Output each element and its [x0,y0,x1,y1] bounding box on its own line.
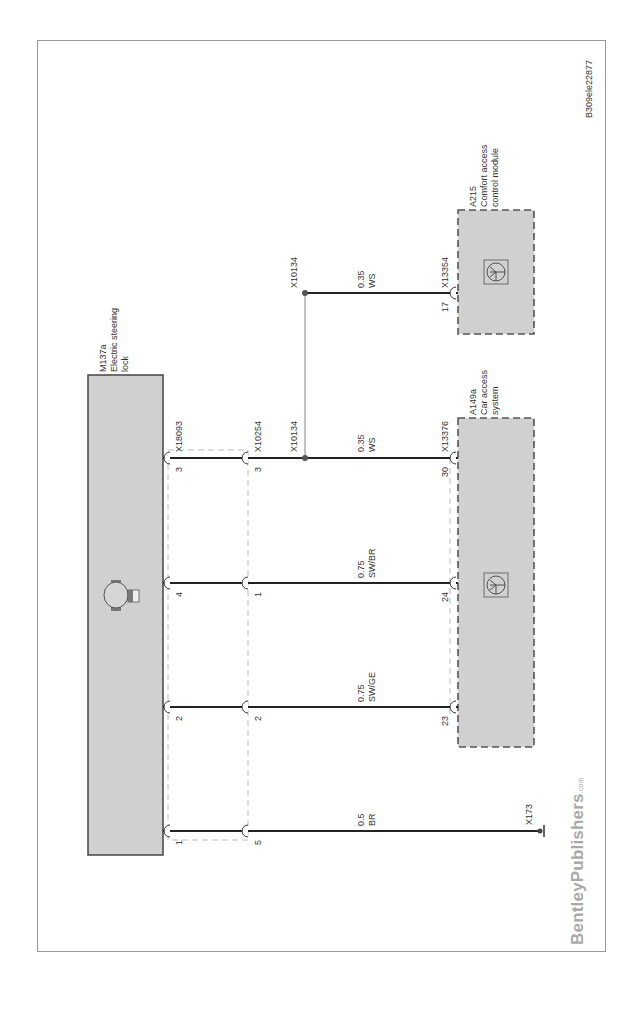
a149a-label: A149a Car access system [468,370,501,415]
transistor-icon [484,260,508,284]
splice-x10134-bottom [302,455,308,461]
m137a-label: M137a Electric steering lock [98,308,131,372]
diagram-graphics [0,0,636,1011]
pin-label: 3 [174,467,185,472]
pin-label: 5 [253,840,264,845]
wire-label: 0.35WS [356,270,378,288]
x173-label: X173 [524,804,535,825]
x13354-label: X13354 [440,257,451,288]
m137a-box [88,375,163,855]
pin-label: 23 [440,716,451,726]
x18093-label: X18093 [174,421,185,452]
wire-label: 0.75SW/GE [356,672,378,702]
wire-label: 0.75SW/BR [356,548,378,578]
wiring-diagram: M137a Electric steering lock A149a Car a… [0,0,636,1011]
pin-label: 1 [174,840,185,845]
wire-label: 0.35WS [356,434,378,452]
x18093-housing [168,450,248,840]
pin-label: 2 [174,716,185,721]
x10134-label-top: X10134 [289,257,300,288]
wire-label: 0.5BR [356,813,378,826]
publisher-logo: BentleyPublishers.com [572,777,586,945]
transistor-icon [484,573,508,597]
figure-id: B309ele22877 [584,60,595,118]
ground-icon [538,825,545,837]
pin-label: 3 [253,467,264,472]
a215-label: A215 Comfort access control module [468,144,501,207]
pin-label: 24 [440,592,451,602]
x10254-label: X10254 [253,421,264,452]
splice-x10134-top [302,290,308,296]
pin-label: 30 [440,467,451,477]
pin-label: 17 [440,302,451,312]
pin-label: 2 [253,716,264,721]
x10134-label-bottom: X10134 [289,421,300,452]
pin-label: 4 [174,592,185,597]
x13376-label: X13376 [440,421,451,452]
pin-label: 1 [253,592,264,597]
